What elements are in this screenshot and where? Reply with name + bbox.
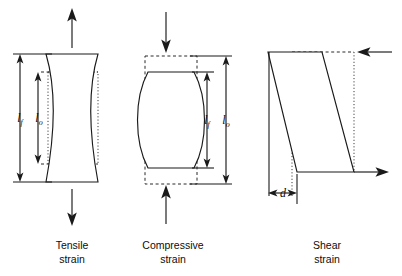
- caption-compressive-line1: Compressive: [142, 239, 203, 251]
- panel-shear: d Shear strain: [268, 47, 392, 265]
- strain-diagram-figure: lf lo Tensile strain: [0, 0, 402, 276]
- caption-compressive-line2: strain: [160, 253, 186, 265]
- caption-shear-line2: strain: [314, 253, 340, 265]
- tensile-label-lf: lf: [17, 111, 24, 127]
- shear-load-arrow-bottom: [354, 167, 389, 177]
- compressive-label-lf: lf: [204, 113, 211, 129]
- caption-tensile-line2: strain: [59, 253, 85, 265]
- shear-label-d: d: [280, 186, 287, 200]
- strain-diagram-svg: lf lo Tensile strain: [0, 0, 402, 276]
- caption-tensile-line1: Tensile: [56, 239, 89, 251]
- shear-specimen-shape: [268, 52, 354, 172]
- tensile-label-lo: lo: [35, 111, 42, 127]
- panel-tensile: lf lo Tensile strain: [13, 8, 98, 265]
- panel-compressive: lf lo Compressive strain: [138, 12, 233, 265]
- caption-shear-line1: Shear: [313, 239, 342, 251]
- tensile-load-arrow-bottom: [67, 189, 77, 226]
- tensile-specimen-shape: [46, 54, 98, 182]
- tensile-load-arrow-top: [67, 8, 77, 48]
- compressive-load-arrow-bottom: [161, 185, 171, 224]
- compressive-specimen-shape: [138, 72, 205, 168]
- shear-load-arrow-top: [357, 47, 392, 57]
- compressive-load-arrow-top: [161, 12, 171, 53]
